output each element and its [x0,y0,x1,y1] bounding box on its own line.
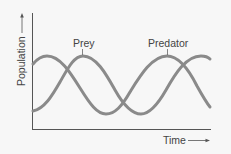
y-axis-arrow-icon [20,13,24,18]
y-axis-label-group: Population [15,13,27,86]
x-axis-label-group: Time [163,134,210,146]
prey-annotation: Prey [73,37,95,55]
x-axis-arrow-icon [206,139,211,143]
y-axis-label: Population [15,36,27,86]
predator-prey-diagram: Population Time Prey Predator [0,0,231,154]
x-axis-label: Time [163,134,186,146]
predator-annotation: Predator [148,37,189,55]
predator-label: Predator [148,37,189,49]
prey-label: Prey [73,37,95,49]
